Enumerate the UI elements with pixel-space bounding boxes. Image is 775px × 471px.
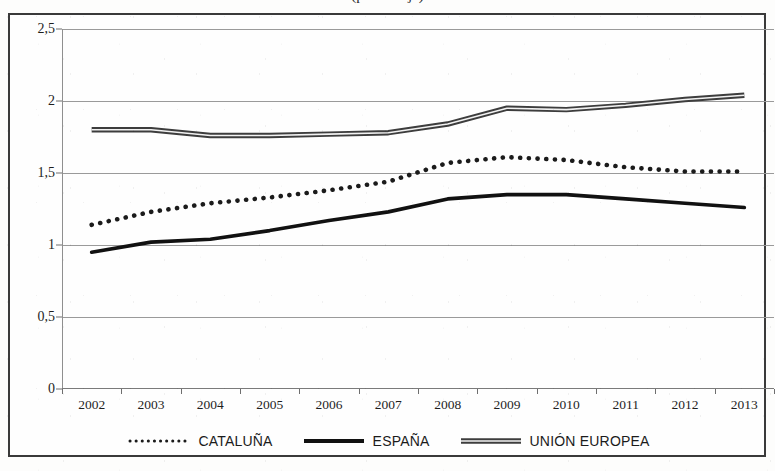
chart-legend: CATALUÑAESPAÑAUNIÓN EUROPEA	[10, 433, 768, 449]
y-tick-label: 1	[48, 237, 55, 253]
plot-area: 00,511,522,5 200220032004200520062007200…	[62, 29, 774, 389]
x-tick-label: 2008	[434, 397, 461, 413]
x-tick-label: 2003	[138, 397, 165, 413]
x-tick-label: 2002	[78, 397, 105, 413]
x-tick-mark	[359, 389, 360, 394]
x-tick-label: 2009	[494, 397, 521, 413]
x-tick-label: 2005	[256, 397, 283, 413]
chart-frame: 00,511,522,5 200220032004200520062007200…	[8, 13, 766, 457]
x-tick-label: 2013	[731, 397, 758, 413]
legend-label: CATALUÑA	[198, 433, 272, 449]
x-tick-mark	[418, 389, 419, 394]
legend-label: ESPAÑA	[373, 433, 430, 449]
y-tick-label: 0	[48, 381, 55, 397]
x-tick-label: 2010	[553, 397, 580, 413]
series-plot	[62, 29, 774, 389]
x-tick-label: 2011	[612, 397, 639, 413]
x-tick-label: 2007	[375, 397, 402, 413]
chart-figure: (porcentaje) 00,511,522,5 20022003200420…	[0, 0, 775, 471]
legend-swatch-icon	[460, 436, 522, 446]
x-tick-mark	[62, 389, 63, 394]
x-tick-mark	[477, 389, 478, 394]
chart-title-text: (porcentaje)	[0, 0, 775, 4]
y-tick-label: 0,5	[38, 309, 56, 325]
legend-swatch-icon	[128, 436, 190, 446]
x-tick-mark	[240, 389, 241, 394]
chart-title-cropped: (porcentaje)	[0, 0, 775, 13]
legend-swatch-icon	[303, 436, 365, 446]
x-tick-mark	[121, 389, 122, 394]
y-tick-label: 2	[48, 93, 55, 109]
legend-entry[interactable]: ESPAÑA	[303, 433, 430, 449]
x-tick-label: 2004	[197, 397, 224, 413]
x-tick-mark	[715, 389, 716, 394]
x-tick-label: 2006	[316, 397, 343, 413]
y-tick-label: 2,5	[38, 21, 56, 37]
series-line-cataluna	[92, 157, 745, 225]
y-tick-label: 1,5	[38, 165, 56, 181]
legend-label: UNIÓN EUROPEA	[530, 433, 650, 449]
x-tick-mark	[655, 389, 656, 394]
series-line-espana	[92, 195, 745, 253]
x-tick-label: 2012	[672, 397, 699, 413]
legend-entry[interactable]: UNIÓN EUROPEA	[460, 433, 650, 449]
x-tick-mark	[299, 389, 300, 394]
legend-entry[interactable]: CATALUÑA	[128, 433, 272, 449]
x-tick-mark	[181, 389, 182, 394]
x-tick-mark	[537, 389, 538, 394]
x-tick-mark	[596, 389, 597, 394]
series-line-union-europea-outline	[92, 95, 745, 135]
